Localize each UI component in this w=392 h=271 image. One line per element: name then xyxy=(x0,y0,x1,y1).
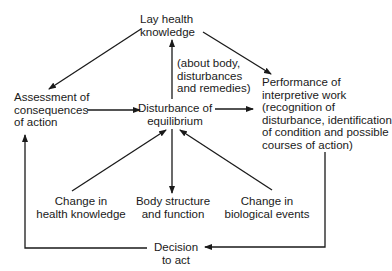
node-line: interpretive work xyxy=(262,89,392,102)
node-line: biological events xyxy=(222,208,312,221)
edge-change-knowledge-to-disturbance xyxy=(72,130,166,191)
node-line: health knowledge xyxy=(36,208,126,221)
edge-change-biological-to-disturbance xyxy=(180,130,272,190)
node-line: to act xyxy=(148,254,204,267)
node-disturbance-of-equilibrium: Disturbance of equilibrium xyxy=(138,102,212,127)
node-line: disturbance, identification xyxy=(262,114,392,127)
node-line: (recognition of xyxy=(262,101,392,114)
node-line: disturbances xyxy=(177,70,251,83)
node-body-structure-and-function: Body structure and function xyxy=(132,195,214,220)
node-line: equilibrium xyxy=(138,115,212,128)
node-change-in-biological-events: Change in biological events xyxy=(222,195,312,220)
node-change-in-health-knowledge: Change in health knowledge xyxy=(36,195,126,220)
node-line: of action xyxy=(14,116,89,129)
node-line: Assessment of xyxy=(14,91,89,104)
node-line: and remedies) xyxy=(177,82,251,95)
node-line: (about body, xyxy=(177,57,251,70)
node-line: Lay health xyxy=(140,13,200,26)
node-line: Body structure xyxy=(132,195,214,208)
node-line: Disturbance of xyxy=(138,102,212,115)
node-about-note: (about body, disturbances and remedies) xyxy=(177,57,251,95)
edge-lay-to-assessment xyxy=(49,29,141,89)
node-decision-to-act: Decision to act xyxy=(148,241,204,266)
edge-decision-to-assessment xyxy=(25,135,147,248)
node-line: Performance of xyxy=(262,76,392,89)
node-line: knowledge xyxy=(140,26,200,39)
node-performance-of-interpretive-work: Performance of interpretive work (recogn… xyxy=(262,76,392,151)
node-line: of condition and possible xyxy=(262,126,392,139)
node-assessment-of-consequences: Assessment of consequences of action xyxy=(14,91,89,129)
node-line: courses of action) xyxy=(262,139,392,152)
node-line: and function xyxy=(132,208,214,221)
node-line: Change in xyxy=(222,195,312,208)
node-line: Change in xyxy=(36,195,126,208)
node-line: consequences xyxy=(14,104,89,117)
node-lay-health-knowledge: Lay health knowledge xyxy=(140,13,200,38)
node-line: Decision xyxy=(148,241,204,254)
